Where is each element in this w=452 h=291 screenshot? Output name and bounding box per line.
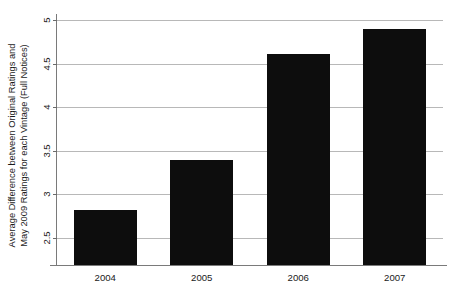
- plot-area: 2.533.544.55: [57, 20, 443, 265]
- y-axis-tick-label: 4: [41, 105, 52, 110]
- y-axis-tick-label: 4.5: [41, 57, 52, 70]
- bar-2004: [74, 210, 137, 265]
- y-axis-tick: [53, 20, 57, 21]
- y-axis-title-line-2: May 2009 Ratings for each Vintage (Full …: [18, 44, 31, 248]
- y-axis-title-line-1: Average Difference between Original Rati…: [6, 44, 19, 248]
- y-axis-tick: [53, 238, 57, 239]
- bar-chart: Average Difference between Original Rati…: [0, 0, 452, 291]
- y-axis-tick-label: 5: [41, 17, 52, 22]
- gridline: [57, 20, 443, 21]
- x-axis-tick-label: 2006: [250, 272, 347, 283]
- bar-2006: [267, 54, 330, 265]
- y-axis-tick-label: 3: [41, 192, 52, 197]
- x-axis-tick-label: 2007: [347, 272, 444, 283]
- y-axis-tick: [53, 64, 57, 65]
- y-axis-tick: [53, 194, 57, 195]
- x-axis-line: [50, 265, 447, 266]
- y-axis-tick-label: 3.5: [41, 144, 52, 157]
- bar-2005: [170, 160, 233, 265]
- y-axis-title: Average Difference between Original Rati…: [0, 0, 36, 291]
- x-axis-tick-label: 2005: [154, 272, 251, 283]
- x-axis-tick-label: 2004: [57, 272, 154, 283]
- y-axis-tick-label: 2.5: [41, 231, 52, 244]
- y-axis-tick: [53, 107, 57, 108]
- y-axis-tick: [53, 151, 57, 152]
- bar-2007: [363, 29, 426, 265]
